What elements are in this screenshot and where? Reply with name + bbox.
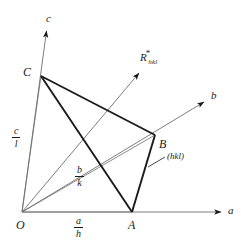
axes-group bbox=[22, 31, 221, 212]
vertex-label-O: O bbox=[16, 219, 25, 231]
edge-C-A bbox=[41, 76, 132, 212]
R-star-hkl-arrow bbox=[22, 73, 139, 212]
fraction-denominator: h bbox=[74, 229, 83, 240]
fraction-numerator: c bbox=[12, 126, 20, 137]
hkl-plane-label: (hkl) bbox=[167, 152, 184, 161]
reciprocal-vector-label: R*hkl bbox=[140, 48, 157, 66]
edge-O-C bbox=[22, 76, 41, 212]
fraction-denominator: k bbox=[75, 178, 84, 189]
reciprocal-vector-superscript: * bbox=[146, 48, 151, 58]
diagram-canvas bbox=[0, 0, 241, 251]
reciprocal-vector-subscript: hkl bbox=[148, 58, 157, 66]
intercept-b-over-k: b k bbox=[75, 165, 84, 188]
reciprocal-vector-group bbox=[22, 73, 139, 212]
hkl-plane-triangle bbox=[41, 76, 155, 212]
vertex-label-C: C bbox=[23, 66, 31, 78]
hkl-leader-line bbox=[148, 157, 165, 167]
fraction-numerator: b bbox=[75, 165, 84, 176]
vertex-label-A: A bbox=[128, 219, 135, 231]
intercept-a-over-h: a h bbox=[74, 216, 83, 239]
edge-C-B bbox=[41, 76, 155, 135]
fraction-numerator: a bbox=[74, 216, 83, 227]
axis-label-b: b bbox=[211, 90, 217, 101]
fraction-denominator: l bbox=[12, 139, 20, 150]
axis-label-a: a bbox=[228, 205, 234, 216]
vertex-label-B: B bbox=[159, 138, 166, 150]
crystal-plane-figure: c b a O A B C c l b k a h R*hkl (hkl) bbox=[0, 0, 241, 251]
intercept-c-over-l: c l bbox=[12, 126, 20, 149]
axis-label-c: c bbox=[46, 13, 51, 24]
